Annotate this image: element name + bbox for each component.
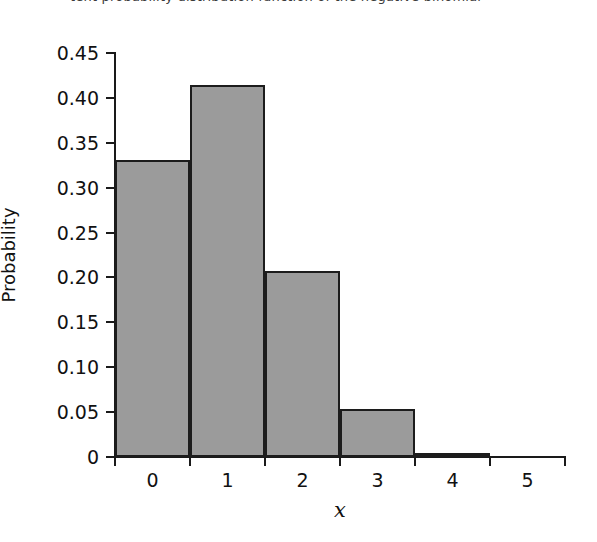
plot-area: 0.450.400.350.300.250.200.150.100.050 01… (115, 53, 565, 457)
x-tick (114, 457, 116, 466)
y-tick: 0.45 (106, 52, 115, 54)
y-tick: 0.15 (106, 321, 115, 323)
x-tick-label: 3 (340, 469, 415, 491)
y-tick: 0.20 (106, 276, 115, 278)
bar (265, 271, 340, 457)
x-tick (564, 457, 566, 466)
x-axis-title: x (115, 498, 565, 522)
x-tick (189, 457, 191, 466)
y-tick-label: 0.40 (57, 87, 99, 109)
y-tick: 0.05 (106, 411, 115, 413)
y-tick-label: 0.25 (57, 222, 99, 244)
y-tick-label: 0.45 (57, 42, 99, 64)
x-tick-label: 2 (265, 469, 340, 491)
y-tick: 0.10 (106, 366, 115, 368)
y-tick-label: 0.10 (57, 356, 99, 378)
x-tick-label: 0 (115, 469, 190, 491)
y-axis-title: Probability (0, 207, 19, 302)
x-tick (264, 457, 266, 466)
x-tick (339, 457, 341, 466)
x-tick-label: 4 (415, 469, 490, 491)
caption-text: tent probability distribution function o… (70, 0, 481, 4)
x-tick-label: 5 (490, 469, 565, 491)
y-tick-label: 0.30 (57, 177, 99, 199)
bar (415, 453, 490, 457)
y-tick-label: 0.05 (57, 401, 99, 423)
y-tick-label: 0.20 (57, 266, 99, 288)
x-tick (414, 457, 416, 466)
y-tick: 0.30 (106, 187, 115, 189)
y-tick: 0.25 (106, 232, 115, 234)
caption-strip: tent probability distribution function o… (0, 0, 597, 10)
x-tick-label: 1 (190, 469, 265, 491)
y-tick: 0.35 (106, 142, 115, 144)
y-tick-label: 0.35 (57, 132, 99, 154)
y-tick-label: 0 (87, 446, 99, 468)
figure: tent probability distribution function o… (0, 0, 597, 542)
y-tick-label: 0.15 (57, 311, 99, 333)
bar (340, 409, 415, 457)
bar (115, 160, 190, 457)
x-tick (489, 457, 491, 466)
y-tick: 0.40 (106, 97, 115, 99)
bar (190, 85, 265, 457)
